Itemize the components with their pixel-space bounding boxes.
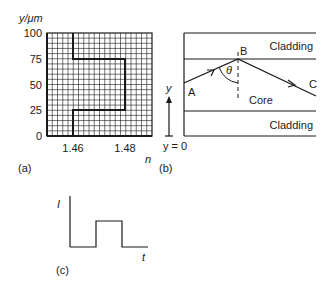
grid-lines	[47, 33, 152, 136]
y-tick-50: 50	[30, 79, 42, 91]
pulse-line	[70, 221, 148, 247]
cladding-top-label: Cladding	[270, 40, 313, 52]
intensity-label: I	[57, 198, 60, 210]
time-label: t	[142, 251, 146, 263]
y-axis-label: y/μm	[18, 12, 43, 24]
figure-canvas: y/μm 100 75 50 25 0 1.46 1.48 n (a) Clad…	[0, 0, 328, 289]
panel-b: Cladding Cladding Core θ A B C y y = 0 (…	[159, 33, 317, 174]
y-label: y	[165, 82, 173, 94]
x-tick-148: 1.48	[114, 142, 135, 154]
theta-label: θ	[226, 64, 232, 76]
panel-a: y/μm 100 75 50 25 0 1.46 1.48 n (a)	[18, 12, 152, 174]
y-tick-25: 25	[30, 104, 42, 116]
y-tick-0: 0	[36, 130, 42, 142]
point-b-label: B	[240, 45, 247, 57]
light-ray	[184, 59, 316, 96]
y-arrow-icon	[166, 96, 172, 103]
panel-c-label: (c)	[56, 264, 69, 276]
y-origin-label: y = 0	[163, 140, 187, 152]
cladding-bottom-label: Cladding	[270, 119, 313, 131]
point-c-label: C	[309, 78, 317, 90]
x-axis-label: n	[145, 153, 151, 165]
panel-c: I t (c)	[56, 196, 148, 276]
y-tick-75: 75	[30, 53, 42, 65]
x-tick-146: 1.46	[62, 142, 83, 154]
panel-a-label: (a)	[18, 162, 31, 174]
panel-b-label: (b)	[159, 162, 172, 174]
y-tick-100: 100	[24, 27, 42, 39]
core-label: Core	[249, 94, 273, 106]
point-a-label: A	[188, 86, 196, 98]
